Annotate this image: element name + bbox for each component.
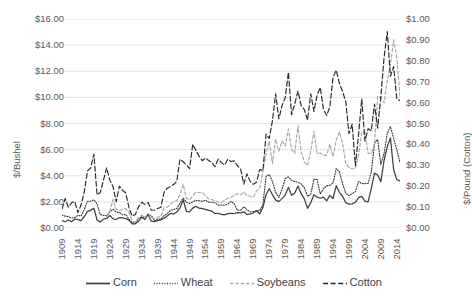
legend-label: Cotton — [350, 276, 382, 288]
x-axis-tick-label: 1909 — [57, 232, 67, 266]
x-axis-tick-label: 1984 — [296, 232, 306, 266]
x-axis-tick-label: 2014 — [392, 232, 402, 266]
x-axis-tick-label: 1964 — [232, 232, 242, 266]
y-axis-left-tick-label: $16.00 — [35, 14, 64, 24]
y-axis-left-tick-label: $8.00 — [40, 119, 64, 129]
x-axis-tick-label: 1954 — [200, 232, 210, 266]
x-axis-tick-label: 1969 — [248, 232, 258, 266]
x-axis-tick-label: 1944 — [169, 232, 179, 266]
x-axis-tick-label: 1924 — [105, 232, 115, 266]
legend-label: Corn — [113, 276, 137, 288]
plot-area — [62, 19, 400, 228]
y-axis-right-tick-label: $0.00 — [406, 223, 430, 233]
legend-swatch-icon — [86, 278, 110, 287]
y-axis-right-tick-label: $0.70 — [406, 77, 430, 87]
y-axis-right-tick-label: $0.80 — [406, 56, 430, 66]
x-axis-tick-label: 1939 — [153, 232, 163, 266]
y-axis-right-tick-label: $0.40 — [406, 139, 430, 149]
legend-swatch-icon — [323, 278, 347, 287]
y-axis-right-tick-label: $0.30 — [406, 160, 430, 170]
legend-swatch-icon — [230, 278, 254, 287]
y-axis-right-tick-label: $0.50 — [406, 119, 430, 129]
x-axis-tick-label: 1999 — [344, 232, 354, 266]
x-axis-tick-label: 2009 — [376, 232, 386, 266]
series-line-wheat — [62, 127, 400, 224]
y-axis-right-tick-label: $0.90 — [406, 35, 430, 45]
y-axis-right-tick-label: $0.20 — [406, 181, 430, 191]
legend-item-wheat[interactable]: Wheat — [154, 276, 213, 288]
legend-item-cotton[interactable]: Cotton — [323, 276, 382, 288]
y-axis-left-tick-label: $14.00 — [35, 40, 64, 50]
y-axis-left-tick-label: $10.00 — [35, 92, 64, 102]
y-axis-right-title: $/Pound (Cotton) — [461, 133, 472, 205]
legend-label: Wheat — [181, 276, 213, 288]
y-axis-left-title: $/Bushel — [11, 141, 22, 178]
y-axis-right-tick-label: $0.10 — [406, 202, 430, 212]
legend-label: Soybeans — [257, 276, 306, 288]
x-axis-tick-label: 1929 — [121, 232, 131, 266]
x-axis-tick-label: 1934 — [137, 232, 147, 266]
x-axis-tick-label: 1919 — [89, 232, 99, 266]
y-axis-right-tick-label: $1.00 — [406, 14, 430, 24]
plot-svg — [62, 19, 400, 228]
legend-swatch-icon — [154, 278, 178, 287]
series-line-corn — [62, 138, 400, 224]
x-axis-tick-label: 2004 — [360, 232, 370, 266]
y-axis-left-tick-label: $12.00 — [35, 66, 64, 76]
y-axis-left-tick-label: $4.00 — [40, 171, 64, 181]
y-axis-left-tick-label: $2.00 — [40, 197, 64, 207]
x-axis-tick-label: 1989 — [312, 232, 322, 266]
x-axis-tick-label: 1959 — [216, 232, 226, 266]
series-line-soybeans — [110, 40, 400, 222]
x-axis-tick-label: 1949 — [185, 232, 195, 266]
legend-item-soybeans[interactable]: Soybeans — [230, 276, 306, 288]
x-axis-tick-label: 1994 — [328, 232, 338, 266]
chart-legend: CornWheatSoybeansCotton — [0, 276, 468, 288]
y-axis-right-tick-label: $0.60 — [406, 98, 430, 108]
y-axis-left-tick-label: $6.00 — [40, 145, 64, 155]
x-axis-tick-label: 1914 — [73, 232, 83, 266]
legend-item-corn[interactable]: Corn — [86, 276, 137, 288]
x-axis-tick-label: 1974 — [264, 232, 274, 266]
x-axis-tick-label: 1979 — [280, 232, 290, 266]
